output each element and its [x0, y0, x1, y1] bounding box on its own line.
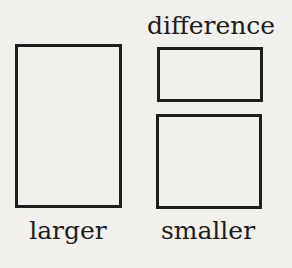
larger-box — [15, 44, 122, 208]
larger-label: larger — [18, 218, 118, 243]
smaller-label: smaller — [152, 218, 264, 243]
smaller-box — [156, 114, 262, 209]
difference-label: difference — [141, 13, 281, 38]
difference-box — [157, 47, 263, 102]
